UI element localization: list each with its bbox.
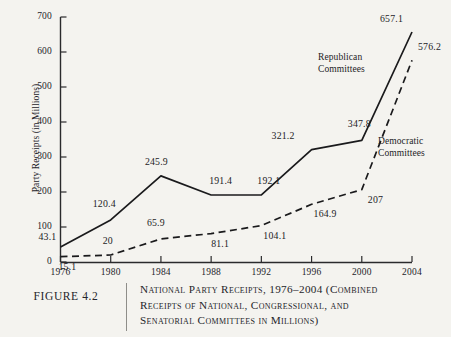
- y-tick-label: 200: [18, 186, 52, 196]
- y-tick-label: 400: [18, 116, 52, 126]
- data-label-republican: 321.2: [272, 130, 295, 141]
- figure-caption-text: National Party Receipts, 1976–2004 (Comb…: [140, 282, 445, 329]
- caption-line: Senatorial Committees in Millions): [140, 313, 445, 329]
- x-tick-label: 1980: [91, 267, 131, 277]
- series-annotation-republican: RepublicanCommittees: [318, 52, 365, 75]
- x-tick-label: 1988: [191, 267, 231, 277]
- annotation-line: Committees: [378, 148, 425, 160]
- data-label-republican: 192.1: [257, 175, 280, 186]
- caption-divider: [126, 283, 127, 331]
- y-tick-label: 500: [18, 81, 52, 91]
- annotation-line: Committees: [318, 64, 365, 76]
- x-tick-label: 2004: [392, 267, 432, 277]
- data-label-republican: 347.8: [348, 118, 371, 129]
- data-label-democratic: 207: [368, 194, 383, 205]
- annotation-line: Republican: [318, 52, 365, 64]
- x-tick-label: 1996: [292, 267, 332, 277]
- x-tick-label: 1992: [241, 267, 281, 277]
- data-label-republican: 191.4: [209, 175, 232, 186]
- caption-line: National Party Receipts, 1976–2004 (Comb…: [140, 282, 445, 298]
- x-tick-label: 1984: [141, 267, 181, 277]
- y-tick-label: 300: [18, 151, 52, 161]
- figure-caption-block: FIGURE 4.2 National Party Receipts, 1976…: [0, 281, 451, 337]
- y-tick-label: 0: [18, 256, 52, 266]
- figure-number-label: FIGURE 4.2: [14, 290, 118, 302]
- chart-plot-area: Party Receipts (in Millions) 01002003004…: [0, 0, 451, 280]
- caption-line: Receipts of National, Congressional, and: [140, 298, 445, 314]
- y-tick-label: 600: [18, 46, 52, 56]
- data-label-democratic: 164.9: [314, 208, 337, 219]
- data-label-democratic: 20: [103, 235, 113, 246]
- data-label-republican: 657.1: [380, 13, 403, 24]
- y-tick-label: 700: [18, 11, 52, 21]
- y-axis-title: Party Receipts (in Millions): [31, 53, 41, 223]
- series-line-democratic: [61, 60, 413, 256]
- x-tick-label: 2000: [342, 267, 382, 277]
- series-annotation-democratic: DemocraticCommittees: [378, 136, 425, 159]
- data-label-democratic: 104.1: [263, 230, 286, 241]
- data-label-republican: 245.9: [145, 156, 168, 167]
- data-label-republican: 43.1: [39, 231, 57, 242]
- data-label-democratic: 65.9: [147, 217, 165, 228]
- y-axis-ticks: [61, 17, 67, 262]
- x-axis-ticks: [61, 256, 413, 262]
- data-label-democratic: 15.1: [59, 261, 77, 272]
- figure-container: Party Receipts (in Millions) 01002003004…: [0, 0, 451, 337]
- data-label-republican: 120.4: [93, 198, 116, 209]
- y-tick-label: 100: [18, 221, 52, 231]
- data-label-democratic: 81.1: [211, 238, 229, 249]
- annotation-line: Democratic: [378, 136, 425, 148]
- data-label-democratic: 576.2: [418, 41, 441, 52]
